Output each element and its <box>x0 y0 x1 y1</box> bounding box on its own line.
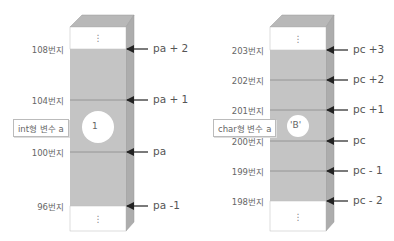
address-label: 202번지 <box>204 74 264 86</box>
svg-text:⋮: ⋮ <box>94 33 103 43</box>
variable-value: 1 <box>92 121 98 131</box>
pointer-label: pc +2 <box>353 73 384 85</box>
pointer-label: pc - 1 <box>353 164 383 176</box>
pointer-label: pc - 2 <box>353 194 383 206</box>
right-memory-column: ⋮ ⋮ <box>270 15 348 231</box>
address-label: 203번지 <box>204 44 264 56</box>
address-label: 104번지 <box>4 94 64 106</box>
pointer-label: pc <box>353 134 365 146</box>
address-label: 100번지 <box>4 146 64 158</box>
left-memory-column: ⋮ ⋮ <box>70 15 148 231</box>
pointer-label: pc +3 <box>353 43 384 55</box>
address-label: 199번지 <box>204 165 264 177</box>
address-label: 198번지 <box>204 195 264 207</box>
variable-label-box: char형 변수 a <box>213 119 276 137</box>
svg-text:⋮: ⋮ <box>94 214 103 224</box>
address-label: 108번지 <box>4 43 64 55</box>
pointer-label: pa -1 <box>153 199 180 211</box>
pointer-label: pa + 1 <box>153 93 188 105</box>
address-label: 96번지 <box>4 200 64 212</box>
svg-text:⋮: ⋮ <box>294 212 303 222</box>
pointer-label: pc +1 <box>353 103 384 115</box>
variable-value: 'B' <box>290 120 301 130</box>
pointer-arithmetic-diagram: ⋮ ⋮ ⋮ ⋮ <box>0 0 394 241</box>
pointer-label: pa + 2 <box>153 42 188 54</box>
pointer-label: pa <box>153 145 166 157</box>
address-label: 201번지 <box>204 104 264 116</box>
variable-label-box: int형 변수 a <box>13 119 69 137</box>
svg-text:⋮: ⋮ <box>294 34 303 44</box>
